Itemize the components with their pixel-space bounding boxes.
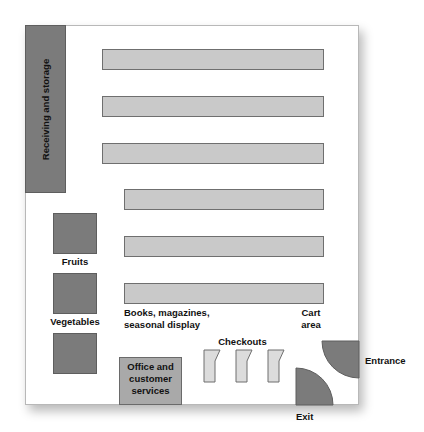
checkout-counter-2 — [236, 350, 252, 382]
shapes-layer — [0, 0, 424, 432]
exit-label: Exit — [296, 411, 313, 423]
checkout-counter-1 — [204, 350, 220, 382]
exit-door-icon — [296, 368, 333, 405]
entrance-label: Entrance — [365, 355, 406, 367]
entrance-door-icon — [322, 341, 359, 378]
checkout-counter-3 — [268, 350, 284, 382]
